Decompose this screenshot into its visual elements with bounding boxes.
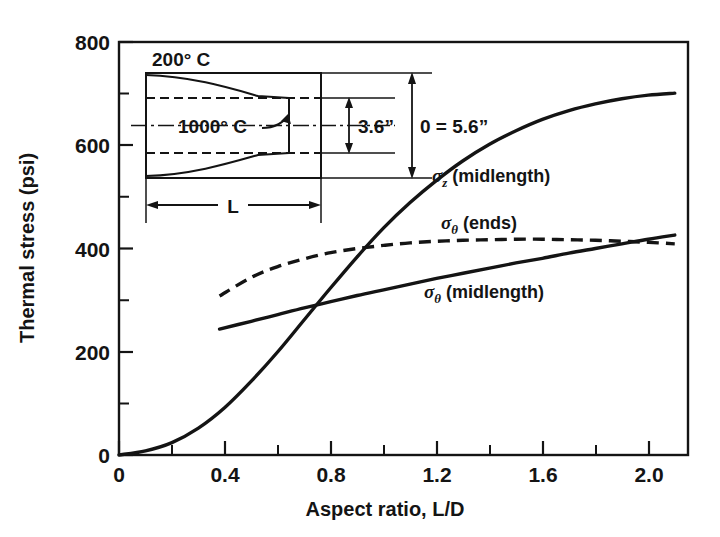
inset-isotherm-lower — [146, 153, 289, 176]
y-axis-title: Thermal stress (psi) — [16, 153, 38, 343]
y-tick-label-400: 400 — [75, 238, 110, 261]
inset-label-inner-diameter: 3.6” — [358, 116, 394, 137]
inset-dim-length-arrow-left — [146, 201, 158, 209]
x-tick-label-1-2: 1.2 — [422, 463, 451, 486]
y-axis-major-ticks — [119, 42, 133, 455]
y-tick-label-200: 200 — [75, 341, 110, 364]
curve-sigma-z-midlength — [119, 93, 675, 455]
svg-text:σθ (ends): σθ (ends) — [441, 212, 517, 237]
sigma-z-text: (midlength) — [447, 166, 550, 186]
curve-label-sigma-theta-ends: σθ (ends) — [441, 212, 517, 237]
x-tick-label-0-8: 0.8 — [316, 463, 346, 486]
curve-label-sigma-z-midlength: σz (midlength) — [432, 165, 550, 190]
inset-label-outer-diameter: 0 = 5.6” — [420, 116, 488, 137]
curve-label-sigma-theta-midlength: σθ (midlength) — [424, 281, 544, 306]
inset-isotherm-upper — [146, 75, 289, 98]
svg-text:σz (midlength): σz (midlength) — [432, 165, 550, 190]
inset-leader-line — [262, 116, 288, 128]
x-tick-label-2-0: 2.0 — [634, 463, 663, 486]
x-tick-label-1-6: 1.6 — [528, 463, 557, 486]
y-tick-label-0: 0 — [98, 444, 110, 467]
inset-label-length: L — [227, 196, 239, 217]
thermal-stress-chart: 800 600 400 200 0 Thermal stress (psi) 0… — [0, 0, 720, 537]
sigma-theta-ends-text: (ends) — [458, 213, 517, 233]
inset-dim-length-arrow-right — [309, 201, 321, 209]
y-tick-label-800: 800 — [75, 31, 110, 54]
inset-diagram: 200° C 1000° C 3.6” 0 = 5.6” — [131, 49, 488, 223]
sigma-theta-mid-text: (midlength) — [441, 282, 544, 302]
inset-dim-outer-arrow-up — [408, 72, 416, 84]
data-curves — [119, 93, 675, 455]
inset-label-1000c: 1000° C — [178, 116, 247, 137]
x-tick-label-0-4: 0.4 — [210, 463, 240, 486]
svg-text:σθ (midlength): σθ (midlength) — [424, 281, 544, 306]
chart-svg: 800 600 400 200 0 Thermal stress (psi) 0… — [0, 0, 720, 537]
x-tick-label-0: 0 — [113, 463, 125, 486]
inset-label-200c: 200° C — [152, 49, 211, 70]
y-tick-label-600: 600 — [75, 134, 110, 157]
x-axis-minor-ticks — [172, 445, 596, 455]
x-axis-title: Aspect ratio, L/D — [306, 498, 465, 520]
inset-dim-outer-arrow-down — [408, 167, 416, 179]
